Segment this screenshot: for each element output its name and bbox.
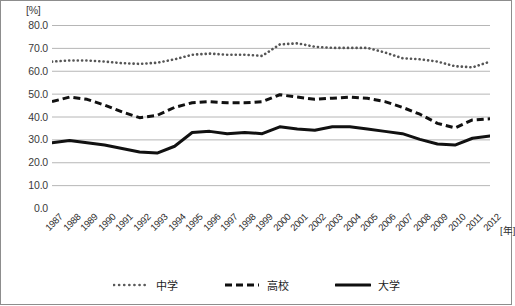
y-axis-tick-label: 30.0 [2, 133, 48, 145]
x-axis-tick-label: 1990 [95, 211, 117, 233]
x-axis-tick-label: 1997 [218, 211, 240, 233]
gridlines [52, 26, 490, 209]
x-axis-tick-label: 1995 [183, 211, 205, 233]
y-axis-tick-label: 70.0 [2, 42, 48, 54]
legend-item: 高校 [224, 277, 289, 293]
y-axis: 80.070.060.050.040.030.020.010.00.0 [0, 0, 48, 306]
x-axis-tick-label: 1989 [78, 211, 100, 233]
y-axis-tick-label: 40.0 [2, 111, 48, 123]
x-axis-tick-label: 2003 [323, 211, 345, 233]
y-axis-tick-label: 0.0 [2, 202, 48, 214]
x-axis-tick-label: 2005 [358, 211, 380, 233]
x-axis-tick-label: 1999 [253, 211, 275, 233]
legend-item-label: 中学 [156, 277, 178, 293]
chart-legend: 中学高校大学 [0, 272, 513, 298]
legend-item-label: 高校 [267, 277, 289, 293]
x-axis-tick-label: 2001 [288, 211, 310, 233]
legend-item: 大学 [335, 277, 400, 293]
y-axis-tick-label: 20.0 [2, 156, 48, 168]
legend-item-label: 大学 [378, 277, 400, 293]
legend-swatch-dotted [113, 280, 149, 290]
plot-area [52, 25, 490, 208]
x-axis-tick-label: 2009 [428, 211, 450, 233]
x-axis-tick-label: 1991 [113, 211, 135, 233]
x-axis-tick-label: 2007 [393, 211, 415, 233]
y-axis-tick-label: 10.0 [2, 179, 48, 191]
series-line [52, 95, 490, 128]
legend-item: 中学 [113, 277, 178, 293]
y-axis-tick-label: 50.0 [2, 88, 48, 100]
y-axis-tick-label: 80.0 [2, 19, 48, 31]
x-axis-tick-label: 2011 [464, 211, 485, 232]
y-axis-tick-label: 60.0 [2, 65, 48, 77]
legend-swatch-solid [335, 280, 371, 290]
x-axis-tick-label: 1993 [148, 211, 170, 233]
legend-swatch-dashed [224, 280, 260, 290]
x-axis: 1987198819891990199119921993199419951996… [52, 209, 490, 257]
series-line [52, 43, 490, 67]
x-axis-unit-label: [年] [500, 223, 515, 237]
x-axis-tick-label: 1988 [60, 211, 82, 233]
